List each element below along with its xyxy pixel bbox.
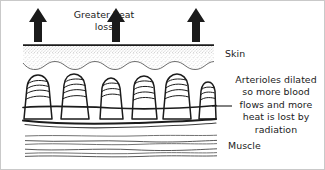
dilated-arteriole-6 bbox=[199, 82, 216, 119]
dilated-arteriole-2 bbox=[61, 74, 89, 119]
dilated-arteriole-group bbox=[24, 74, 216, 119]
label-skin: Skin bbox=[225, 48, 245, 60]
muscle-fibre-4 bbox=[25, 149, 217, 151]
biology-diagram-figure: Greater heat loss Skin Arterioles dilate… bbox=[0, 0, 325, 170]
label-greater-heat-loss: Greater heat loss bbox=[64, 9, 144, 34]
dilated-arteriole-4 bbox=[132, 76, 157, 119]
muscle-fibre-6 bbox=[25, 156, 217, 157]
dilated-arteriole-1 bbox=[24, 75, 52, 119]
heat-loss-arrow-left bbox=[29, 8, 47, 42]
muscle-layer bbox=[25, 135, 217, 157]
muscle-fibre-1 bbox=[25, 135, 217, 136]
heat-loss-arrow-right bbox=[187, 8, 205, 42]
epidermis-stipple-fill-top bbox=[23, 46, 214, 53]
label-muscle: Muscle bbox=[228, 140, 261, 152]
dilated-arteriole-3 bbox=[100, 78, 123, 119]
epidermis-layer bbox=[23, 45, 214, 69]
muscle-fibre-3 bbox=[25, 144, 217, 145]
annotation-arterioles-dilated: Arterioles dilated so more blood flows a… bbox=[229, 74, 323, 136]
muscle-fibre-5 bbox=[25, 153, 217, 154]
muscle-fibre-2 bbox=[25, 140, 217, 142]
dilated-arteriole-5 bbox=[163, 74, 191, 119]
